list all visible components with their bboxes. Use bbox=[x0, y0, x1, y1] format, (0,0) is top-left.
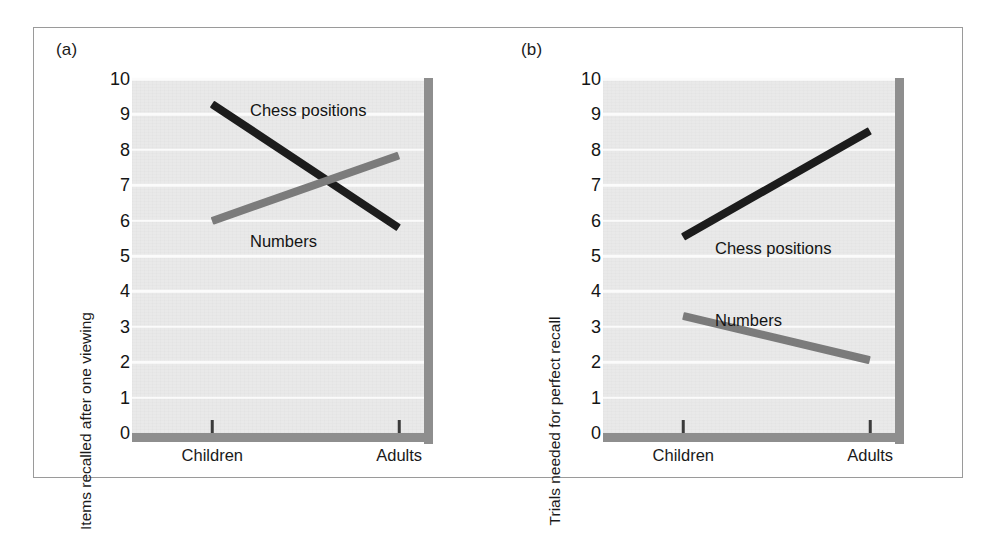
y-tick-label: 9 bbox=[100, 105, 130, 123]
gridline bbox=[603, 149, 895, 152]
y-tick-label: 0 bbox=[571, 424, 601, 442]
y-tick-label: 6 bbox=[100, 212, 130, 230]
x-tick-mark bbox=[398, 420, 401, 433]
series-label-numbers: Numbers bbox=[250, 232, 317, 251]
y-tick-label: 7 bbox=[571, 176, 601, 194]
y-tick-label: 5 bbox=[100, 247, 130, 265]
y-tick-label: 8 bbox=[100, 141, 130, 159]
y-tick-label: 2 bbox=[100, 353, 130, 371]
gridline bbox=[603, 184, 895, 187]
panel-b-plot-right-shadow bbox=[895, 78, 904, 444]
gridline bbox=[603, 290, 895, 293]
panel-a-y-ticks: 109876543210 bbox=[100, 68, 130, 434]
x-tick-mark bbox=[682, 420, 685, 433]
y-tick-label: 6 bbox=[571, 212, 601, 230]
panel-b-x-axis-bar bbox=[603, 433, 904, 442]
gridline bbox=[132, 361, 424, 364]
x-tick-label: Children bbox=[182, 446, 243, 465]
y-tick-label: 4 bbox=[100, 282, 130, 300]
y-tick-label: 1 bbox=[100, 389, 130, 407]
gridline bbox=[603, 113, 895, 116]
gridline bbox=[603, 396, 895, 399]
gridline bbox=[603, 361, 895, 364]
panel-b-plot-area: Chess positionsNumbers bbox=[603, 79, 895, 433]
y-tick-label: 3 bbox=[571, 318, 601, 336]
gridline bbox=[603, 219, 895, 222]
y-tick-label: 9 bbox=[571, 105, 601, 123]
series-label-chess-positions: Chess positions bbox=[250, 101, 366, 120]
panel-a-plot-area: Chess positionsNumbers bbox=[132, 79, 424, 433]
gridline bbox=[132, 396, 424, 399]
y-tick-label: 2 bbox=[571, 353, 601, 371]
panel-a: (a) Items recalled after one viewing 109… bbox=[34, 28, 499, 479]
gridline bbox=[132, 184, 424, 187]
y-tick-label: 7 bbox=[100, 176, 130, 194]
y-tick-label: 5 bbox=[571, 247, 601, 265]
x-tick-label: Adults bbox=[376, 446, 422, 465]
panel-a-y-axis-title: Items recalled after one viewing bbox=[77, 256, 95, 533]
panel-b-tag: (b) bbox=[521, 40, 542, 60]
panel-b-y-axis-title: Trials needed for perfect recall bbox=[546, 256, 564, 533]
figure-container: (a) Items recalled after one viewing 109… bbox=[33, 27, 963, 478]
x-tick-label: Children bbox=[653, 446, 714, 465]
y-tick-label: 3 bbox=[100, 318, 130, 336]
x-tick-mark bbox=[211, 420, 214, 433]
panel-a-plot-right-shadow bbox=[424, 78, 433, 444]
y-tick-label: 1 bbox=[571, 389, 601, 407]
series-label-chess-positions: Chess positions bbox=[715, 239, 831, 258]
gridline bbox=[132, 255, 424, 258]
x-tick-mark bbox=[869, 420, 872, 433]
panel-b-y-ticks: 109876543210 bbox=[571, 68, 601, 434]
panel-a-x-axis-bar bbox=[132, 433, 433, 442]
panel-b: (b) Trials needed for perfect recall 109… bbox=[499, 28, 964, 479]
y-tick-label: 8 bbox=[571, 141, 601, 159]
series-label-numbers: Numbers bbox=[715, 311, 782, 330]
gridline bbox=[603, 78, 895, 81]
y-tick-label: 10 bbox=[100, 70, 130, 88]
gridline bbox=[132, 78, 424, 81]
x-tick-label: Adults bbox=[847, 446, 893, 465]
y-tick-label: 4 bbox=[571, 282, 601, 300]
gridline bbox=[132, 326, 424, 329]
y-tick-label: 0 bbox=[100, 424, 130, 442]
gridline bbox=[132, 290, 424, 293]
panel-a-tag: (a) bbox=[56, 40, 77, 60]
y-tick-label: 10 bbox=[571, 70, 601, 88]
